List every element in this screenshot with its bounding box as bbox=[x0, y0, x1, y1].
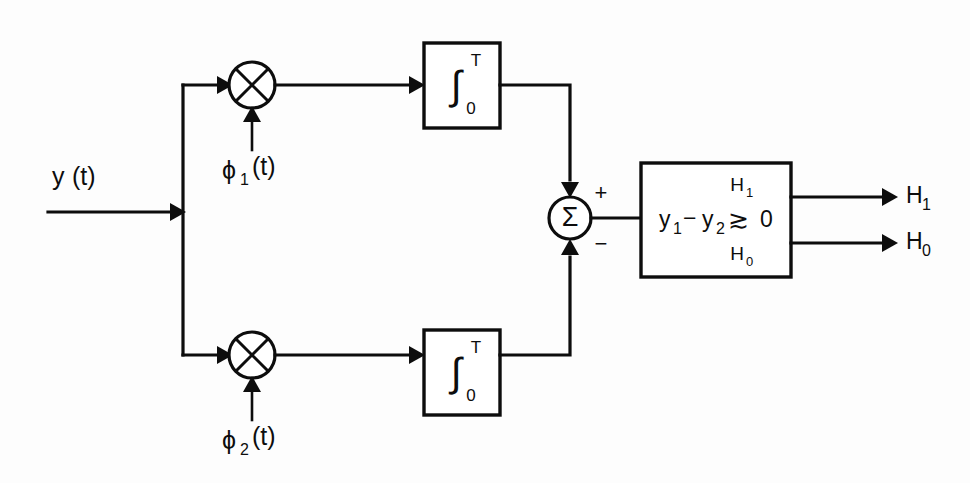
output-label-h1-base: H bbox=[906, 182, 923, 208]
lower-integrator-lower-limit: 0 bbox=[466, 386, 475, 405]
decision-expr-left-subscript: 1 bbox=[673, 220, 682, 237]
lower-multiplier-group: ϕ 2 (t) bbox=[222, 332, 425, 458]
summer-group: Σ + − bbox=[549, 180, 641, 256]
input-split-bus bbox=[183, 76, 233, 364]
lower-reference-label-subscript: 2 bbox=[240, 441, 249, 458]
decision-hypothesis-above-base: H bbox=[730, 174, 744, 195]
input-label-arg: (t) bbox=[72, 162, 96, 190]
summer-symbol: Σ bbox=[562, 202, 579, 232]
upper-reference-label-arg: (t) bbox=[252, 152, 276, 180]
decision-block-group: y 1 − y 2 H 1 ≳ H 0 0 bbox=[641, 163, 791, 277]
decision-comparator-symbol: ≳ bbox=[728, 205, 749, 233]
lower-integrator-block bbox=[424, 330, 500, 415]
upper-integrator-output-wire bbox=[500, 85, 570, 180]
decision-threshold-value: 0 bbox=[760, 206, 773, 232]
upper-reference-label-base: ϕ bbox=[222, 156, 236, 184]
upper-integrator-upper-limit: T bbox=[471, 51, 481, 70]
diagram-canvas: y (t) ϕ 1 (t) ∫ bbox=[0, 0, 970, 483]
summer-minus-sign: − bbox=[595, 231, 608, 256]
lower-integrator-group: ∫ T 0 bbox=[424, 239, 579, 415]
summer-plus-sign: + bbox=[595, 180, 608, 205]
output-arrowhead-h1 bbox=[882, 188, 898, 206]
lower-reference-label-base: ϕ bbox=[222, 426, 236, 454]
lower-integrator-upper-limit: T bbox=[471, 338, 481, 357]
decision-hypothesis-below-subscript: 0 bbox=[746, 254, 753, 269]
decision-expr-right-subscript: 2 bbox=[716, 220, 725, 237]
upper-integrator-group: ∫ T 0 bbox=[424, 43, 579, 198]
correlation-receiver-diagram: y (t) ϕ 1 (t) ∫ bbox=[0, 0, 970, 483]
upper-multiplier-group: ϕ 1 (t) bbox=[222, 62, 425, 188]
output-label-h0-subscript: 0 bbox=[922, 242, 931, 259]
decision-hypothesis-above-subscript: 1 bbox=[746, 185, 753, 200]
outputs-group: H 1 H 0 bbox=[791, 182, 931, 259]
decision-expr-left-base: y bbox=[659, 206, 671, 232]
output-label-h1-subscript: 1 bbox=[922, 196, 931, 213]
summer-minus-input-arrowhead bbox=[561, 239, 579, 255]
output-arrowhead-h0 bbox=[882, 234, 898, 252]
decision-hypothesis-below-base: H bbox=[730, 243, 744, 264]
decision-expr-minus: − bbox=[683, 205, 696, 231]
input-label-base: y bbox=[52, 162, 65, 190]
input-signal-group: y (t) bbox=[48, 162, 186, 221]
upper-reference-label-subscript: 1 bbox=[240, 171, 249, 188]
lower-reference-label-arg: (t) bbox=[252, 422, 276, 450]
upper-integrator-lower-limit: 0 bbox=[466, 99, 475, 118]
lower-integrator-output-wire bbox=[500, 257, 570, 355]
output-label-h0-base: H bbox=[906, 228, 923, 254]
decision-expr-right-base: y bbox=[702, 206, 714, 232]
upper-integrator-block bbox=[424, 43, 500, 128]
